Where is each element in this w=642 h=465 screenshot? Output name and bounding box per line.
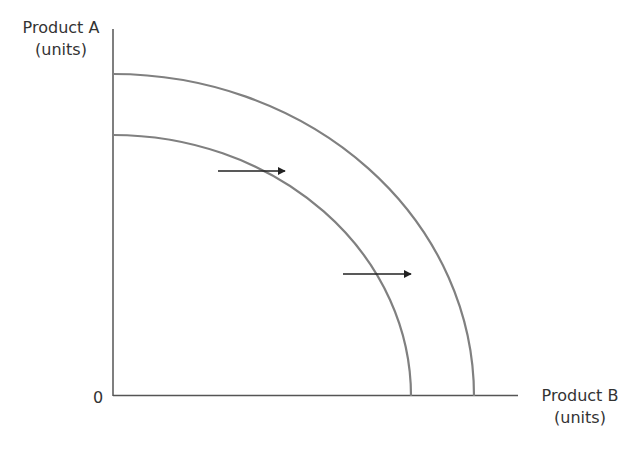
- inner-ppf-curve: [113, 135, 411, 396]
- ppf-diagram: [0, 0, 642, 465]
- outer-ppf-curve: [113, 74, 474, 396]
